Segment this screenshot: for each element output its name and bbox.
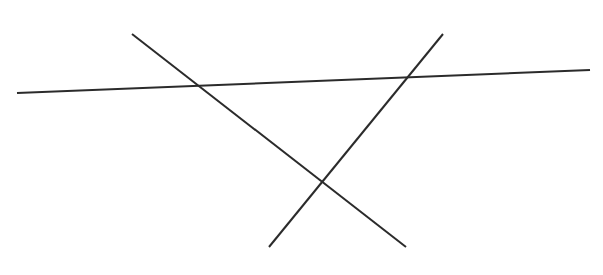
three-intersecting-lines-diagram xyxy=(0,0,603,275)
diagram-background xyxy=(0,0,603,275)
